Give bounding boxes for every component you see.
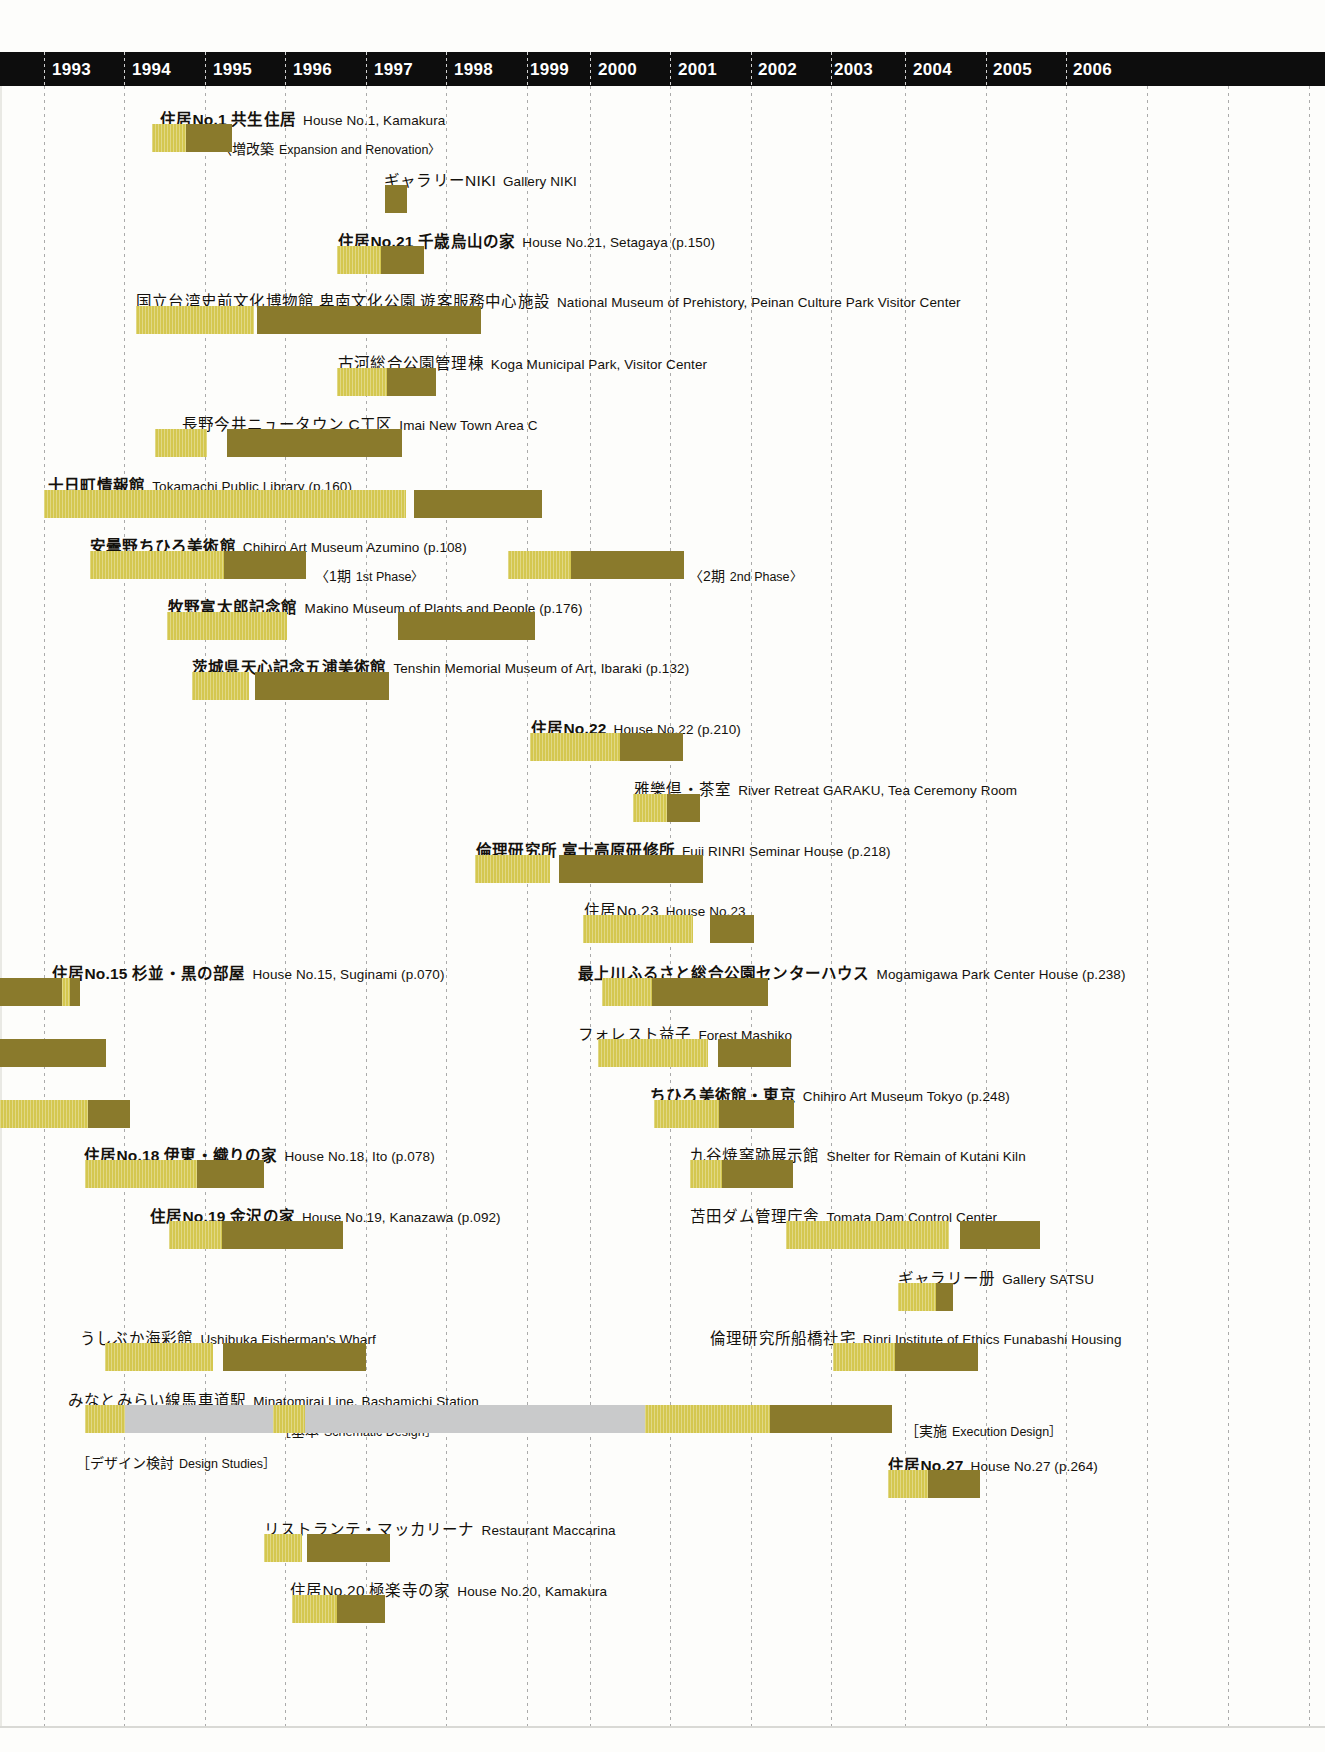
phase-note-jp: ［実施 [905,1423,947,1439]
gantt-bar-constructionphase [928,1470,980,1498]
gantt-bar-constructionphase [227,429,402,457]
gantt-bar-designphase [337,246,381,274]
gantt-bar-constructionphase [0,1039,106,1067]
project-name-en: Chihiro Art Museum Tokyo (p.248) [803,1089,1010,1104]
gantt-bar-constructionphase [223,1343,366,1371]
gantt-bar-constructionphase [620,733,683,761]
project-name-en: House No.1, Kamakura [303,113,445,128]
phase-note-en: Execution Design］ [952,1425,1062,1439]
gantt-bar-designphase [136,306,254,334]
year-label-2005: 2005 [993,60,1032,80]
gantt-bar-constructionphase [667,794,700,822]
phase-note-jp: 〈1期 [315,568,351,584]
gantt-chart-page: 1993199419951996199719981999200020012002… [0,0,1325,1752]
gantt-bar-designphase [786,1221,949,1249]
project-name-en: River Retreat GARAKU, Tea Ceremony Room [738,783,1017,798]
phase-note-en: 1st Phase〉 [356,570,425,584]
project-name-en: House No.18, Ito (p.078) [285,1149,435,1164]
year-tick-1996 [285,52,286,86]
phase-note-en: 2nd Phase〉 [730,570,803,584]
gantt-bar-designphase [633,794,667,822]
project-name-en: Gallery SATSU [1002,1272,1094,1287]
gantt-bar-constructionphase [719,1100,794,1128]
gantt-bar-designphase [583,915,693,943]
phase-note: ［デザイン検討Design Studies］ [76,1456,276,1471]
year-tick-1995 [205,52,206,86]
phase-note: 〈1期1st Phase〉 [315,569,424,584]
phase-note-en: Design Studies］ [179,1457,276,1471]
gantt-bar-designphase [292,1595,337,1623]
gantt-bar-designphase [833,1343,895,1371]
gantt-bar-constructionphase [414,490,542,518]
year-label-1999: 1999 [530,60,569,80]
year-label-2006: 2006 [1073,60,1112,80]
project-name-en: House No.15, Suginami (p.070) [253,967,445,982]
year-axis-header: 1993199419951996199719981999200020012002… [0,52,1325,86]
gantt-bar-designphase [337,368,387,396]
year-tick-2003 [831,52,832,86]
project-rows: 住居No.1 共生住居House No.1, Kamakura〈増改築Expan… [0,86,1325,1726]
gantt-bar-designphase [602,978,652,1006]
gantt-bar-constructionphase [895,1343,978,1371]
gantt-bar-constructionphase [571,551,684,579]
gantt-bar-constructionphase [70,978,80,1006]
project-name-jp: 住居No.15 杉並・黒の部屋 [52,965,246,982]
project-name-en: Restaurant Maccarina [482,1523,616,1538]
project-name-en: Gallery NIKI [503,174,577,189]
gantt-bar-constructionphase [197,1160,264,1188]
gantt-bar-constructionphase [255,672,389,700]
year-label-1995: 1995 [213,60,252,80]
gantt-bar-constructionphase [710,915,754,943]
gantt-bar-designphase [598,1039,708,1067]
gantt-bar-designphase [192,672,249,700]
gantt-bar-designphase [44,490,406,518]
year-tick-2001 [670,52,671,86]
year-tick-1999 [527,52,528,86]
project-name-en: Shelter for Remain of Kutani Kiln [827,1149,1026,1164]
project-name-en: National Museum of Prehistory, Peinan Cu… [557,295,961,310]
gantt-bar-designphase [508,551,571,579]
year-label-2002: 2002 [758,60,797,80]
year-tick-2002 [751,52,752,86]
gantt-bar-constructionphase [381,246,424,274]
gantt-bar-constructionphase [186,124,232,152]
gantt-bar-designphase [85,1405,125,1433]
gantt-bar-constructionphase [257,306,481,334]
year-label-1998: 1998 [454,60,493,80]
year-label-1997: 1997 [374,60,413,80]
gantt-bar-designphase [90,551,224,579]
year-tick-2006 [1066,52,1067,86]
gantt-bar-constructionphase [936,1283,953,1311]
gantt-bar-designphase [645,1405,770,1433]
gantt-bar-designphase [264,1534,302,1562]
gantt-bar-constructionphase [88,1100,130,1128]
phase-note-jp: ［デザイン検討 [76,1455,174,1471]
year-tick-1994 [124,52,125,86]
chart-baseline [0,1726,1325,1728]
project-name-en: House No.21, Setagaya (p.150) [522,235,715,250]
year-label-2003: 2003 [834,60,873,80]
year-tick-1998 [446,52,447,86]
gantt-bar-designphase [888,1470,928,1498]
gantt-bar-designphase [105,1343,213,1371]
gantt-bar-designphase [169,1221,222,1249]
project-name-en: House No.20, Kamakura [457,1584,607,1599]
project-name-en: Mogamigawa Park Center House (p.238) [877,967,1126,982]
project-name-en: House No.27 (p.264) [971,1459,1098,1474]
gantt-bar-designphase [898,1283,936,1311]
project-label: ギャラリーNIKIGallery NIKI [384,173,577,189]
gantt-bar-designphase [167,612,287,640]
gantt-bar-designphase [475,855,550,883]
gantt-bar-constructionphase [718,1039,791,1067]
gantt-bar-designphase [654,1100,719,1128]
phase-note: 〈2期2nd Phase〉 [689,569,803,584]
gantt-bar-constructionphase [722,1160,793,1188]
gantt-bar-designphase [152,124,186,152]
project-name-en: Fuji RINRI Seminar House (p.218) [682,844,891,859]
phase-note-jp: 〈2期 [689,568,725,584]
gantt-bar-designphase [155,429,207,457]
year-label-2004: 2004 [913,60,952,80]
gantt-bar-constructionphase [224,551,306,579]
gantt-bar-constructionphase [387,368,436,396]
phase-note: ［実施Execution Design］ [905,1424,1062,1439]
